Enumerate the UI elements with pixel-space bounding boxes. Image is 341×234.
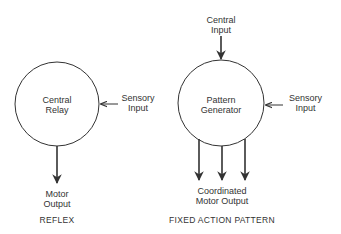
input-label-line: Input [191, 25, 251, 35]
central-input-label: Central Input [191, 15, 251, 35]
output-label-line: Motor [27, 189, 87, 199]
fap-sensory-input-label: Sensory Input [283, 93, 328, 113]
input-label-line: Sensory [283, 93, 328, 103]
reflex-sensory-input-label: Sensory Input [118, 93, 158, 113]
output-label-line: Motor Output [182, 196, 262, 206]
node-label-line: Pattern [186, 95, 256, 105]
coordinated-motor-output-label: Coordinated Motor Output [182, 186, 262, 206]
input-label-line: Sensory [118, 93, 158, 103]
pattern-generator-label: Pattern Generator [186, 95, 256, 115]
node-label-line: Central [27, 95, 87, 105]
input-label-line: Input [283, 103, 328, 113]
central-relay-label: Central Relay [27, 95, 87, 115]
output-label-line: Output [27, 199, 87, 209]
reflex-motor-output-label: Motor Output [27, 189, 87, 209]
input-label-line: Input [118, 103, 158, 113]
input-label-line: Central [191, 15, 251, 25]
node-label-line: Relay [27, 105, 87, 115]
reflex-caption: REFLEX [27, 215, 87, 225]
node-label-line: Generator [186, 105, 256, 115]
output-label-line: Coordinated [182, 186, 262, 196]
diagram-canvas: Central Relay Sensory Input Motor Output… [0, 0, 341, 234]
fixed-action-pattern-caption: FIXED ACTION PATTERN [162, 215, 282, 225]
